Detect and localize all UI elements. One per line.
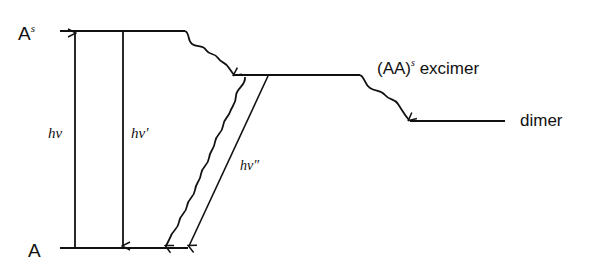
dimer-formation-wavy-arrow xyxy=(360,75,409,120)
excimer-level-label: (AA)s excimer xyxy=(377,57,479,78)
excited-level-label: As xyxy=(18,22,35,44)
excimer-formation-wavy-arrow xyxy=(185,31,234,75)
monomer-fluorescence-label: hν′ xyxy=(131,125,149,141)
excimer-nonradiative-wavy-arrow xyxy=(166,77,245,246)
excimer-fluorescence-label: hν″ xyxy=(240,158,259,173)
ground-level-label: A xyxy=(28,240,41,261)
dimer-level-label: dimer xyxy=(520,111,563,130)
absorption-label: hν xyxy=(48,125,63,141)
energy-diagram: As A (AA)s excimer dimer hν hν′ hν″ xyxy=(0,0,593,271)
